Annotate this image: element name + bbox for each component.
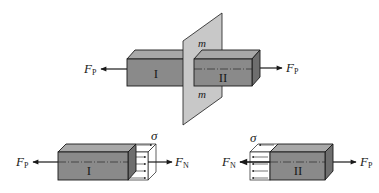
plane-label-lower: m [198, 88, 206, 100]
force-label-br-right: FP [359, 154, 373, 170]
stress-label-right: σ [250, 130, 257, 145]
part-2-label-bottom: II [294, 163, 303, 178]
part-1-label-bottom: I [87, 163, 91, 178]
bottom-right-figure: II σ FN FP [221, 130, 373, 180]
top-figure: I II m m FP FP [83, 13, 299, 125]
axial-load-section-diagram: I II m m FP FP I σ [0, 0, 379, 193]
force-label-top-right: FP [285, 60, 299, 76]
force-label-top-left: FP [83, 61, 97, 77]
diagram-canvas: I II m m FP FP I σ [0, 0, 379, 193]
force-label-br-left: FN [221, 154, 236, 170]
part-1-label: I [154, 66, 158, 81]
bottom-left-figure: I σ FP FN [15, 128, 189, 180]
stress-label-left: σ [151, 128, 158, 143]
part-2-label: II [219, 70, 228, 85]
force-label-bl-right: FN [174, 154, 189, 170]
force-label-bl-left: FP [15, 154, 29, 170]
box-part-1-free-body [58, 144, 136, 180]
plane-label-upper: m [198, 37, 206, 49]
